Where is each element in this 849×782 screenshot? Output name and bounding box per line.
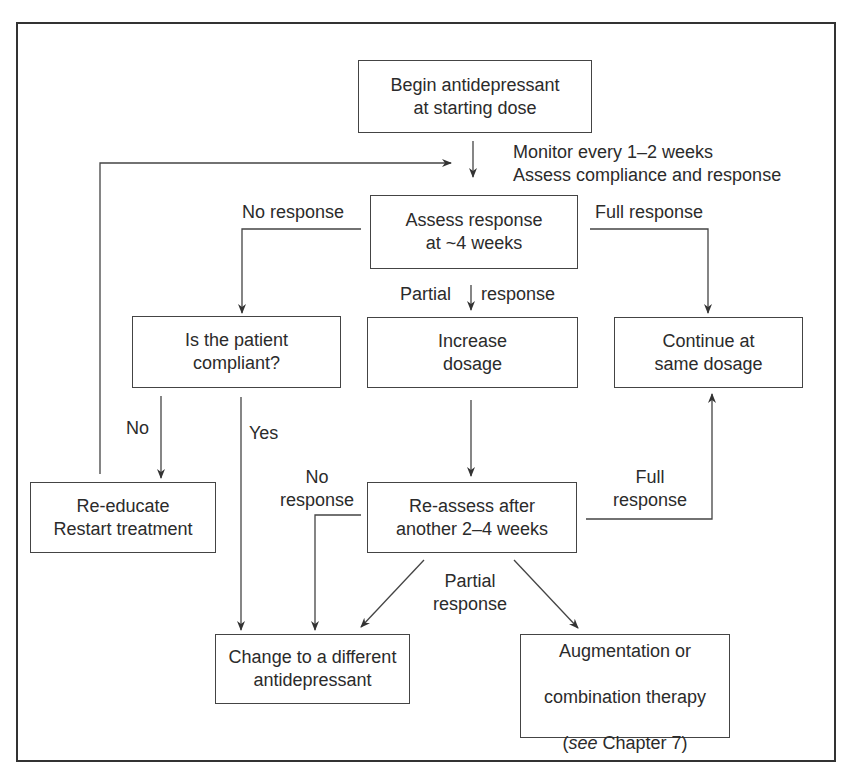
label-full-response-2: Full response [600,466,700,512]
label-yes: Yes [249,422,278,445]
node-text: Re-educate Restart treatment [53,495,192,541]
label-no-response-2: No response [272,466,362,512]
label-no: No [126,417,149,440]
node-text: Increase dosage [438,330,507,376]
node-text: Continue at same dosage [654,330,762,376]
node-text: Assess response at ~4 weeks [405,209,542,255]
node-text: Change to a different antidepressant [229,646,397,692]
node-increase-dosage: Increase dosage [367,317,578,388]
label-full-response: Full response [595,201,703,224]
label-response: response [481,283,555,306]
node-change-antidepressant: Change to a different antidepressant [215,634,410,704]
node-text: Begin antidepressant at starting dose [390,74,559,120]
label-monitor: Monitor every 1–2 weeks Assess complianc… [513,141,781,187]
node-text: Is the patient compliant? [185,329,288,375]
label-partial: Partial [400,283,451,306]
label-partial-response-2: Partial response [425,570,515,616]
node-augmentation-combination: Augmentation or combination therapy (see… [520,634,730,738]
node-text: Augmentation or combination therapy (see… [544,617,706,755]
node-assess-response: Assess response at ~4 weeks [370,195,578,269]
node-reeducate-restart: Re-educate Restart treatment [30,482,216,553]
node-continue-same-dosage: Continue at same dosage [614,317,803,388]
node-reassess-2-4-weeks: Re-assess after another 2–4 weeks [367,482,577,553]
label-no-response: No response [242,201,344,224]
node-patient-compliant: Is the patient compliant? [132,316,341,388]
node-text: Re-assess after another 2–4 weeks [396,495,548,541]
node-begin-antidepressant: Begin antidepressant at starting dose [358,60,592,133]
